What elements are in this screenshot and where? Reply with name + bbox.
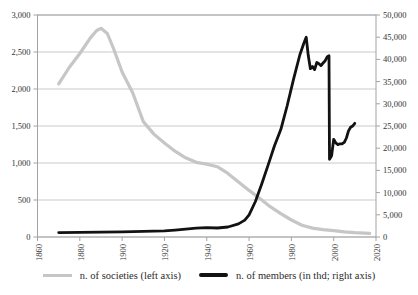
svg-text:0: 0 bbox=[383, 232, 387, 242]
legend-item-members: n. of members (in thd; right axis) bbox=[199, 270, 375, 281]
svg-text:45,000: 45,000 bbox=[383, 32, 406, 42]
svg-text:40,000: 40,000 bbox=[383, 54, 406, 64]
svg-text:35,000: 35,000 bbox=[383, 77, 406, 87]
societies-line-swatch bbox=[43, 274, 72, 277]
svg-text:5,000: 5,000 bbox=[383, 210, 402, 220]
dual-axis-line-chart: 05001,0001,5002,0002,5003,00005,00010,00… bbox=[0, 0, 418, 295]
svg-text:0: 0 bbox=[26, 232, 30, 242]
svg-text:1,500: 1,500 bbox=[11, 121, 30, 131]
legend-item-societies: n. of societies (left axis) bbox=[43, 270, 181, 281]
members-legend-label: n. of members (in thd; right axis) bbox=[236, 270, 375, 281]
svg-text:25,000: 25,000 bbox=[383, 121, 406, 131]
societies-legend-label: n. of societies (left axis) bbox=[80, 270, 181, 281]
svg-text:1880: 1880 bbox=[76, 244, 86, 261]
svg-text:10,000: 10,000 bbox=[383, 188, 406, 198]
svg-text:2,500: 2,500 bbox=[11, 47, 30, 57]
svg-text:1980: 1980 bbox=[287, 244, 297, 261]
svg-text:20,000: 20,000 bbox=[383, 143, 406, 153]
legend: n. of societies (left axis) n. of member… bbox=[0, 263, 418, 287]
svg-text:1900: 1900 bbox=[118, 244, 128, 261]
svg-text:1960: 1960 bbox=[245, 244, 255, 261]
svg-text:3,000: 3,000 bbox=[11, 10, 30, 20]
svg-text:2000: 2000 bbox=[330, 244, 340, 261]
members-line-swatch bbox=[199, 273, 228, 277]
svg-text:1,000: 1,000 bbox=[11, 158, 30, 168]
plot-area: 05001,0001,5002,0002,5003,00005,00010,00… bbox=[0, 0, 418, 295]
svg-text:1940: 1940 bbox=[203, 244, 213, 261]
svg-text:2,000: 2,000 bbox=[11, 84, 30, 94]
svg-text:50,000: 50,000 bbox=[383, 10, 406, 20]
svg-text:500: 500 bbox=[18, 195, 31, 205]
svg-text:30,000: 30,000 bbox=[383, 99, 406, 109]
svg-text:1920: 1920 bbox=[160, 244, 170, 261]
svg-text:2020: 2020 bbox=[372, 244, 382, 261]
svg-text:15,000: 15,000 bbox=[383, 165, 406, 175]
svg-text:1860: 1860 bbox=[34, 244, 44, 261]
